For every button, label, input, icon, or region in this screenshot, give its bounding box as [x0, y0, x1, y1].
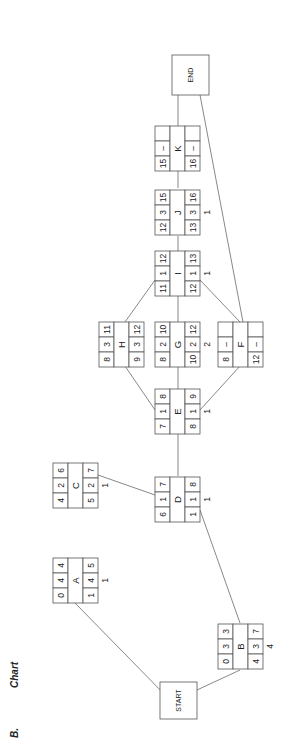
node-i-ef: 12 [158, 254, 168, 264]
node-b-duration: 3 [221, 644, 231, 649]
node-f-label: F [235, 341, 246, 347]
edge-b-d [200, 510, 240, 623]
node-a-lf: 5 [86, 563, 96, 568]
node-e-duration-late: 1 [188, 409, 198, 414]
node-h-ls: 9 [132, 357, 142, 362]
node-h-lf: 12 [132, 325, 142, 335]
node-i-label: I [172, 272, 183, 275]
node-f-duration-late: – [251, 342, 261, 347]
node-c-lf: 7 [86, 468, 96, 473]
node-start: START [160, 682, 197, 719]
node-i-duration: 1 [158, 271, 168, 276]
node-k-es: 15 [158, 159, 168, 169]
node-b-lf: 7 [251, 629, 261, 634]
node-i-lf: 13 [188, 254, 198, 264]
node-j: 12 3 15 J 13 3 16 1 [155, 190, 212, 235]
node-h-ef: 11 [102, 325, 112, 334]
node-b-ls: 4 [251, 659, 261, 664]
node-b-duration-late: 3 [251, 644, 261, 649]
node-a-ls: 1 [86, 593, 96, 598]
edge-h-i [125, 280, 155, 322]
node-e-slack: 1 [202, 409, 212, 414]
node-d: 6 1 7 D 1 1 8 1 [155, 477, 212, 522]
node-a-ef: 4 [56, 563, 66, 568]
node-j-ls: 13 [188, 223, 198, 233]
node-e-es: 7 [158, 424, 168, 429]
node-b-label: B [235, 643, 246, 649]
node-a-duration-late: 4 [86, 578, 96, 583]
edge-e-h [125, 366, 155, 410]
node-d-lf: 8 [188, 482, 198, 487]
node-c-slack: 1 [100, 483, 110, 488]
node-i-slack: 1 [202, 271, 212, 276]
node-e-lf: 9 [188, 394, 198, 399]
node-j-duration-late: 3 [188, 210, 198, 215]
edge-e-f [200, 366, 240, 410]
section-heading: B. Chart [9, 661, 20, 738]
node-c-es: 4 [56, 498, 66, 503]
node-e-ef: 8 [158, 394, 168, 399]
node-a: 0 4 4 A 1 4 5 1 [53, 558, 110, 603]
node-h-duration-late: 3 [132, 342, 142, 347]
node-g: 8 2 10 G 10 2 12 2 [155, 322, 212, 367]
node-i: 11 1 12 I 12 1 13 1 [155, 251, 212, 296]
node-b: 0 3 3 B 4 3 7 4 [218, 624, 275, 669]
node-j-es: 12 [158, 223, 168, 233]
node-k-duration: – [158, 146, 168, 151]
node-k-ls: 16 [188, 159, 198, 169]
node-f-ls: 12 [251, 355, 261, 365]
node-e-duration: 1 [158, 409, 168, 414]
node-g-duration: 2 [158, 342, 168, 347]
network-diagram: B. Chart START END 0 4 4 A [0, 0, 289, 753]
node-g-ls: 10 [188, 355, 198, 365]
node-g-ef: 10 [158, 325, 168, 335]
node-g-es: 8 [158, 357, 168, 362]
node-e-ls: 8 [188, 424, 198, 429]
node-c-duration-late: 2 [86, 483, 96, 488]
node-g-label: G [172, 341, 183, 348]
node-j-lf: 16 [188, 193, 198, 203]
node-j-slack: 1 [202, 210, 212, 215]
node-h-duration: 3 [102, 342, 112, 347]
node-h: 8 3 11 H 9 3 12 [99, 322, 144, 367]
node-g-duration-late: 2 [188, 342, 198, 347]
node-k: 15 – K 16 – [155, 126, 200, 171]
node-d-slack: 1 [202, 497, 212, 502]
node-end: END [172, 55, 209, 95]
end-label: END [187, 68, 194, 83]
node-d-label: D [172, 496, 183, 503]
node-k-duration-late: – [188, 146, 198, 151]
node-c-ef: 6 [56, 468, 66, 473]
node-j-label: J [172, 210, 183, 215]
node-i-es: 11 [158, 284, 168, 293]
node-d-es: 6 [158, 512, 168, 517]
edge-start-b [197, 670, 240, 690]
node-d-ls: 1 [188, 512, 198, 517]
edge-i-f [200, 280, 240, 322]
node-i-duration-late: 1 [188, 271, 198, 276]
node-g-lf: 12 [188, 325, 198, 335]
node-c-ls: 5 [86, 498, 96, 503]
node-j-ef: 15 [158, 193, 168, 203]
node-e: 7 1 8 E 8 1 9 1 [155, 389, 212, 434]
node-c-label: C [70, 482, 81, 489]
node-e-label: E [172, 408, 183, 414]
node-a-label: A [70, 577, 81, 584]
node-i-ls: 12 [188, 284, 198, 294]
start-label: START [175, 689, 182, 712]
node-a-slack: 1 [100, 578, 110, 583]
node-h-es: 8 [102, 357, 112, 362]
edge-f-end [200, 95, 243, 322]
node-h-label: H [116, 341, 127, 348]
node-j-duration: 3 [158, 210, 168, 215]
node-g-slack: 2 [202, 342, 212, 347]
node-a-duration: 4 [56, 578, 66, 583]
node-a-es: 0 [56, 593, 66, 598]
node-b-es: 0 [221, 659, 231, 664]
node-k-label: K [172, 145, 183, 152]
node-b-ef: 3 [221, 629, 231, 634]
node-b-slack: 4 [265, 644, 275, 649]
node-c-duration: 2 [56, 483, 66, 488]
section-title: Chart [9, 661, 20, 688]
node-c: 4 2 6 C 5 2 7 1 [53, 463, 110, 508]
